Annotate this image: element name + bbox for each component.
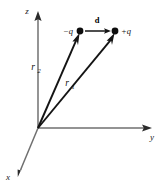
x-axis-line [21,128,39,170]
x-axis [18,128,38,177]
r1-vector-label-base: r [65,78,69,88]
x-axis-label: x [5,172,10,182]
dipole-diagram-canvas: z y x −q +q d r 2 r 1 [0,0,165,193]
y-axis [38,124,152,131]
position-vectors [38,33,115,128]
coordinate-axes [18,11,152,177]
r2-vector-label-base: r [31,62,35,72]
r2-vector [38,33,80,128]
y-axis-label: y [149,132,154,142]
dipole-figure: z y x −q +q d r 2 r 1 [0,0,165,193]
r2-vector-arrowhead [72,33,79,45]
negative-charge-label: −q [63,26,74,36]
r2-vector-label: r 2 [31,62,41,74]
r1-vector-label-subscript: 1 [71,83,74,90]
r1-vector [38,33,115,128]
positive-charge-label: +q [121,26,132,36]
r2-vector-label-subscript: 2 [37,67,41,74]
negative-charge-dot [77,28,84,35]
z-axis-label: z [24,6,29,16]
d-vector-label: d [95,15,100,25]
d-vector [85,28,111,34]
positive-charge-dot [112,28,119,35]
